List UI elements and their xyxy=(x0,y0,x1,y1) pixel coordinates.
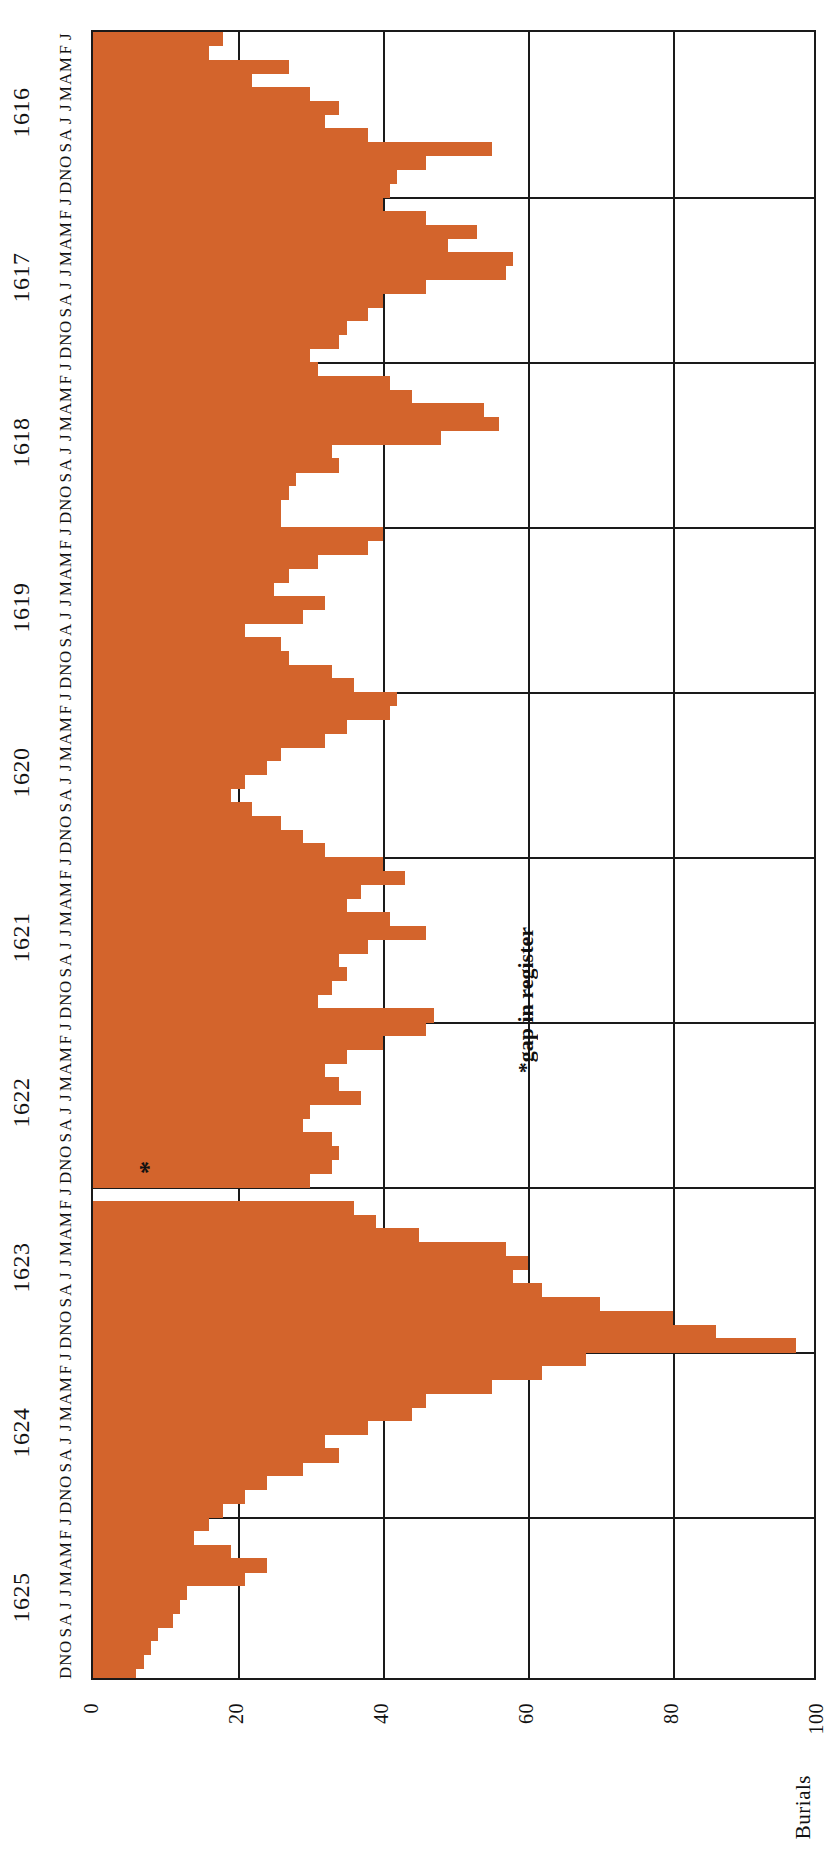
bar xyxy=(93,1517,209,1531)
month-letter: J xyxy=(56,1020,86,1033)
month-letter: S xyxy=(56,1296,86,1309)
month-letter: S xyxy=(56,636,86,649)
month-letter: A xyxy=(56,897,86,910)
bar xyxy=(93,761,267,775)
month-letter: O xyxy=(56,1475,86,1488)
bar xyxy=(93,170,398,184)
bar xyxy=(93,362,318,376)
month-letter: J xyxy=(56,1091,86,1104)
bar xyxy=(93,1503,224,1517)
month-letter: J xyxy=(56,30,86,43)
bar xyxy=(93,692,398,706)
bar xyxy=(93,1201,354,1215)
month-letter: A xyxy=(56,788,86,801)
bar xyxy=(93,1366,543,1380)
bar xyxy=(93,802,253,816)
month-letter: A xyxy=(56,402,86,415)
month-letter: N xyxy=(56,1488,86,1501)
gridline-horizontal xyxy=(528,32,530,1678)
month-letter: M xyxy=(56,1047,86,1062)
month-letter: J xyxy=(56,1104,86,1117)
month-letter: M xyxy=(56,1542,86,1557)
month-letter: A xyxy=(56,1448,86,1461)
bar xyxy=(93,1173,311,1187)
bar xyxy=(93,830,303,844)
bar xyxy=(93,1050,347,1064)
month-letter: M xyxy=(56,251,86,266)
month-letter: A xyxy=(56,128,86,141)
bar xyxy=(93,1105,311,1119)
bar xyxy=(93,348,311,362)
bar xyxy=(93,1132,332,1146)
month-letter: N xyxy=(56,993,86,1006)
month-group: JFMAMJJASOND xyxy=(56,855,86,1020)
month-letter: D xyxy=(56,1006,86,1019)
month-letter: J xyxy=(56,855,86,868)
bar xyxy=(93,1613,173,1627)
month-letter: A xyxy=(56,237,86,250)
month-letter: N xyxy=(56,1158,86,1171)
month-letter: J xyxy=(56,1269,86,1282)
bar xyxy=(93,1572,245,1586)
month-letter: O xyxy=(56,320,86,333)
bar xyxy=(93,211,427,225)
bar xyxy=(93,1462,303,1476)
bar xyxy=(93,1393,427,1407)
month-letter: M xyxy=(56,1406,86,1421)
bar xyxy=(93,1352,586,1366)
month-letter: A xyxy=(56,293,86,306)
month-letter: D xyxy=(56,676,86,689)
bar xyxy=(93,225,477,239)
month-letter: M xyxy=(56,717,86,732)
bar xyxy=(93,458,340,472)
bar xyxy=(93,73,253,87)
bar xyxy=(93,101,340,115)
month-letter: S xyxy=(56,801,86,814)
month-letter: M xyxy=(56,1076,86,1091)
month-letter: A xyxy=(56,623,86,636)
month-group: JFMAMJJASOND xyxy=(56,30,86,195)
bar xyxy=(93,843,325,857)
month-letter: M xyxy=(56,416,86,431)
bar xyxy=(93,307,369,321)
month-letter: M xyxy=(56,882,86,897)
month-group: JFMAMJJASOND xyxy=(56,690,86,855)
month-letter: F xyxy=(56,1528,86,1541)
bar xyxy=(93,1325,717,1339)
bar xyxy=(93,1297,601,1311)
bar xyxy=(93,816,282,830)
month-letter: J xyxy=(56,101,86,114)
y-axis-tick-label: 80 xyxy=(660,1703,683,1763)
bar xyxy=(93,142,492,156)
month-letter: J xyxy=(56,774,86,787)
bar xyxy=(93,128,369,142)
month-letter: N xyxy=(56,1653,86,1666)
bar xyxy=(93,183,390,197)
month-letter: S xyxy=(56,471,86,484)
bar xyxy=(93,1668,137,1680)
bar xyxy=(93,596,325,610)
bar xyxy=(93,775,245,789)
bar xyxy=(93,197,383,211)
bar xyxy=(93,1407,412,1421)
bar xyxy=(93,967,347,981)
bar xyxy=(93,1036,383,1050)
month-letter: O xyxy=(56,980,86,993)
month-letter: A xyxy=(56,732,86,745)
bar xyxy=(93,321,347,335)
gap-annotation-label: *gap in register xyxy=(514,927,540,1073)
month-letter: O xyxy=(56,485,86,498)
bar xyxy=(93,1077,340,1091)
bar xyxy=(93,403,485,417)
bar xyxy=(93,390,412,404)
month-letter: O xyxy=(56,815,86,828)
month-letter-row: JFMAMJJASONDJFMAMJJASONDJFMAMJJASONDJFMA… xyxy=(56,30,86,1680)
month-group: JFMAMJJASOND xyxy=(56,1185,86,1350)
bar xyxy=(93,706,390,720)
month-letter: O xyxy=(56,1310,86,1323)
month-group: JFMAMJJASOND xyxy=(56,195,86,360)
bar xyxy=(93,1338,796,1352)
month-letter: A xyxy=(56,1613,86,1626)
bar xyxy=(93,953,340,967)
month-letter: S xyxy=(56,1461,86,1474)
